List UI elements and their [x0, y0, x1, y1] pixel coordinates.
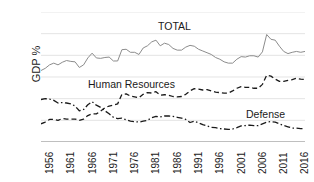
series-label-human-resources: Human Resources — [88, 78, 175, 90]
x-tick-label: 1991 — [194, 152, 204, 174]
gdp-percent-line-chart: GDP % 051015202530 TOTAL Human Resources… — [0, 0, 314, 182]
x-tick-label: 2016 — [300, 152, 310, 174]
series-label-total: TOTAL — [158, 20, 191, 32]
x-tick-label: 1976 — [130, 152, 140, 174]
x-tick-label: 2001 — [237, 152, 247, 174]
x-tick-label: 1966 — [88, 152, 98, 174]
x-tick-label: 1986 — [173, 152, 183, 174]
x-tick-label: 1996 — [215, 152, 225, 174]
x-tick-label: 1971 — [109, 152, 119, 174]
x-tick-label: 2011 — [279, 152, 289, 174]
x-tick-label: 1956 — [45, 152, 55, 174]
series-label-defense: Defense — [246, 108, 285, 120]
x-tick-label: 1961 — [66, 152, 76, 174]
series-line-total — [41, 35, 305, 71]
x-tick-label: 1981 — [151, 152, 161, 174]
x-tick-label: 2006 — [258, 152, 268, 174]
